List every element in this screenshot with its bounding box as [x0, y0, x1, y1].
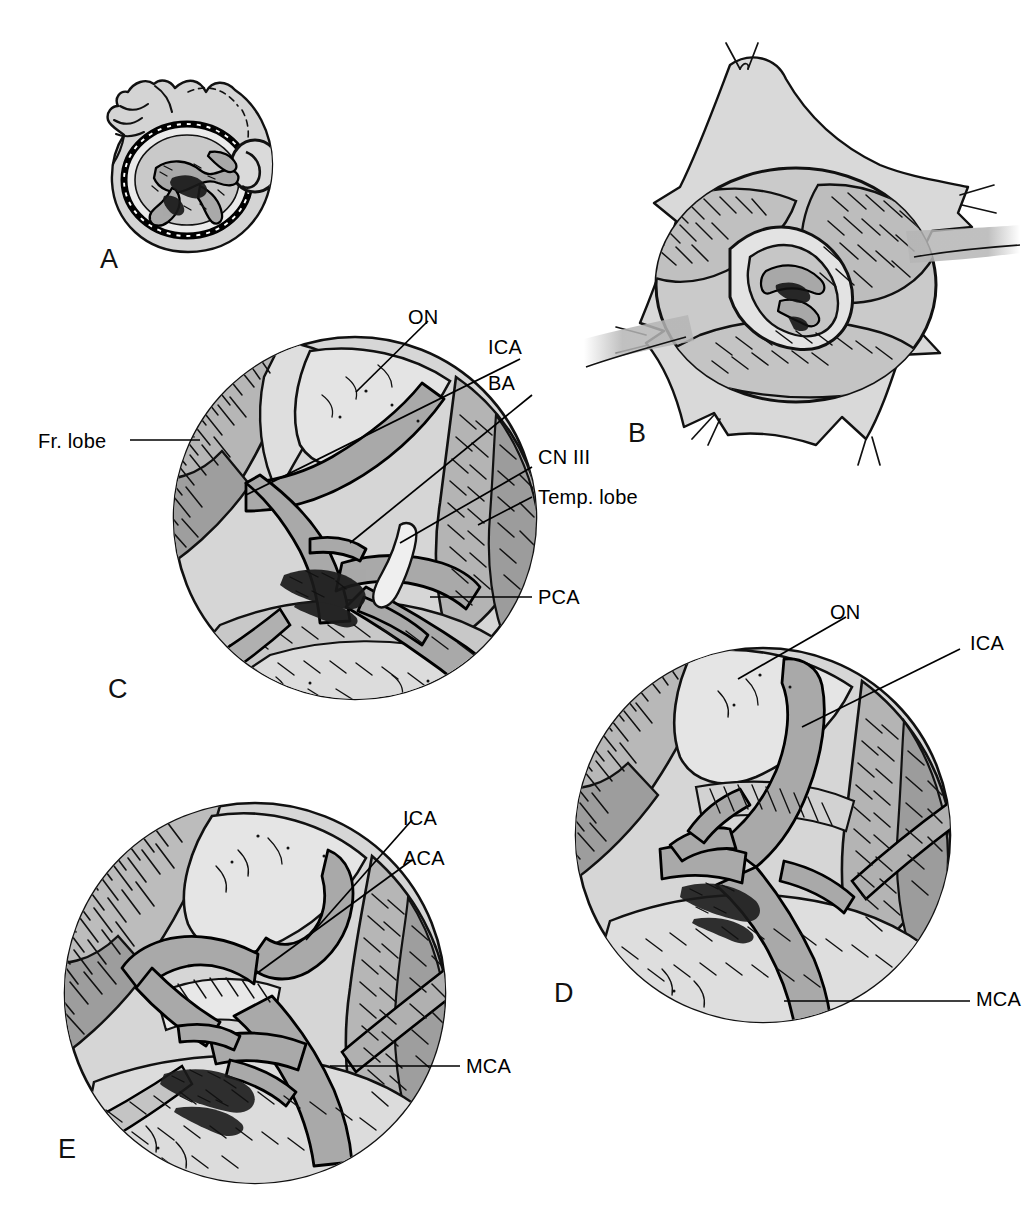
label-pca-c: PCA	[538, 587, 580, 607]
label-cn-iii-c: CN III	[538, 447, 590, 467]
panel-a: A	[60, 40, 320, 300]
panel-d-letter: D	[554, 980, 574, 1007]
label-on-d: ON	[830, 602, 860, 622]
panel-b: B	[580, 35, 1020, 475]
panel-d-artwork	[570, 635, 970, 1045]
panel-e-artwork	[60, 798, 460, 1198]
label-mca-d: MCA	[976, 989, 1021, 1009]
figure-plate: A	[0, 0, 1025, 1221]
panel-a-letter: A	[100, 246, 118, 273]
panel-c: Fr. lobe ON ICA BA CN III Temp. lobe PCA…	[160, 325, 560, 725]
label-ba-c: BA	[488, 373, 515, 393]
panel-d: ON ICA MCA D	[570, 635, 970, 1045]
panel-c-letter: C	[108, 676, 128, 703]
panel-b-letter: B	[628, 420, 646, 447]
label-ica-e: ICA	[403, 808, 437, 828]
panel-a-artwork	[60, 40, 320, 300]
panel-b-artwork	[580, 35, 1020, 475]
panel-e-letter: E	[58, 1136, 76, 1163]
label-temp-lobe-c: Temp. lobe	[538, 487, 638, 507]
label-ica-c: ICA	[488, 337, 522, 357]
label-on-c: ON	[408, 307, 438, 327]
label-mca-e: MCA	[466, 1056, 511, 1076]
label-aca-e: ACA	[403, 848, 445, 868]
panel-e: ICA ACA MCA E	[60, 798, 460, 1198]
label-ica-d: ICA	[970, 633, 1004, 653]
label-fr-lobe: Fr. lobe	[38, 431, 106, 451]
